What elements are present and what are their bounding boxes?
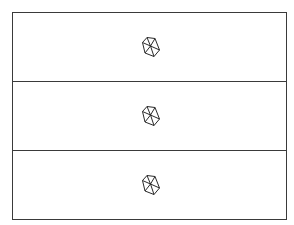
panel-middle	[13, 81, 286, 150]
panel-stack-frame	[12, 12, 287, 220]
panel-top	[13, 13, 286, 81]
panel-bottom	[13, 150, 286, 219]
polyhedron-icon	[141, 36, 161, 58]
polyhedron-icon	[141, 105, 161, 127]
polyhedron-icon	[141, 174, 161, 196]
